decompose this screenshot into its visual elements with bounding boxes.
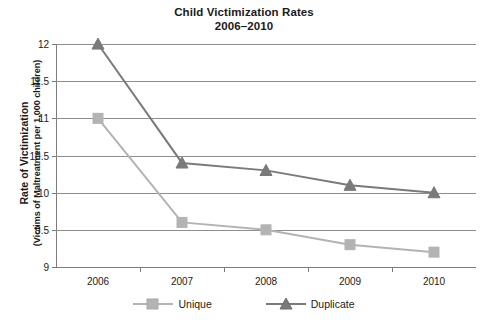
y-tick-label: 11 (39, 113, 49, 124)
data-point-square-icon (345, 240, 355, 250)
series-duplicate (92, 38, 440, 198)
legend-item-duplicate[interactable]: Duplicate (266, 297, 355, 311)
y-tick-label: 10.5 (30, 150, 49, 161)
data-series-group (56, 44, 476, 268)
chart-figure: Child Victimization Rates 2006–2010 Rate… (0, 0, 488, 327)
plot-area: 1211.51110.5109.59 20062007200820092010 (56, 44, 476, 268)
chart-title: Child Victimization Rates 2006–2010 (0, 5, 488, 33)
x-tick-label: 2009 (339, 276, 361, 287)
data-point-square-icon (261, 225, 271, 235)
y-tick-label: 9 (43, 262, 49, 273)
data-point-triangle-icon (92, 38, 104, 49)
series-unique (93, 113, 439, 257)
data-point-square-icon (177, 217, 187, 227)
legend-label-unique: Unique (178, 298, 211, 310)
y-tick-label: 10 (38, 187, 49, 198)
legend-label-duplicate: Duplicate (311, 298, 355, 310)
legend-item-unique[interactable]: Unique (133, 297, 211, 311)
chart-legend: Unique Duplicate (0, 297, 488, 311)
chart-title-main: Child Victimization Rates (174, 6, 314, 18)
y-tick-label: 9.5 (35, 224, 49, 235)
legend-marker-square-icon (133, 297, 173, 311)
y-tick-label: 11.5 (30, 76, 49, 87)
x-tick-label: 2008 (255, 276, 277, 287)
data-point-square-icon (93, 113, 103, 123)
chart-title-subtitle: 2006–2010 (0, 19, 488, 33)
y-tick-label: 12 (38, 39, 49, 50)
legend-marker-triangle-icon (266, 297, 306, 311)
x-tick-label: 2006 (87, 276, 109, 287)
data-point-square-icon (429, 247, 439, 257)
x-tick-label: 2010 (423, 276, 445, 287)
x-tick-label: 2007 (171, 276, 193, 287)
